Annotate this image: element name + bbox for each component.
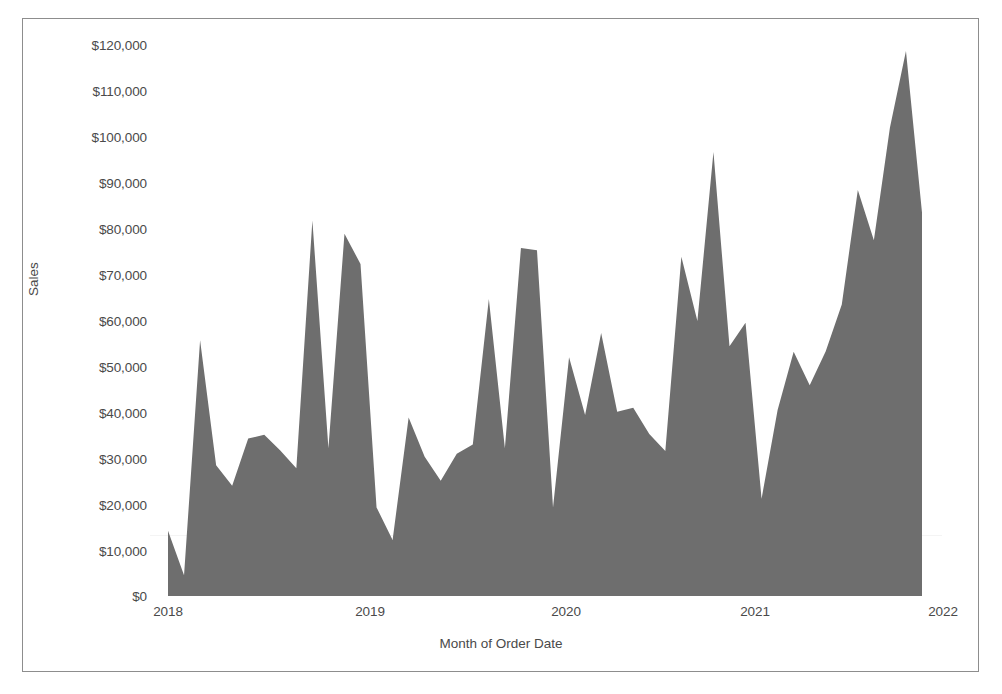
y-tick-label: $120,000 — [91, 38, 147, 53]
chart-frame — [22, 18, 979, 672]
x-tick-label: 2020 — [551, 604, 581, 619]
x-tick-label: 2018 — [153, 604, 183, 619]
y-tick-label: $10,000 — [99, 544, 147, 559]
y-tick-label: $70,000 — [99, 268, 147, 283]
y-tick-label: $110,000 — [92, 84, 147, 99]
x-tick-label: 2021 — [740, 604, 770, 619]
x-tick-label: 2022 — [928, 604, 958, 619]
y-tick-label: $20,000 — [99, 498, 147, 513]
y-tick-label: $60,000 — [99, 314, 147, 329]
y-tick-label: $100,000 — [91, 130, 147, 145]
x-tick-label: 2019 — [355, 604, 385, 619]
y-axis-title: Sales — [26, 262, 41, 296]
chart-page: $120,000 $110,000 $100,000 $90,000 $80,0… — [0, 0, 1002, 694]
scan-artifact-band — [150, 535, 942, 536]
y-tick-label: $40,000 — [99, 406, 147, 421]
y-tick-label: $50,000 — [99, 360, 147, 375]
y-tick-label: $90,000 — [99, 176, 147, 191]
x-axis-title: Month of Order Date — [0, 636, 1002, 651]
y-tick-label: $0 — [132, 589, 147, 604]
y-tick-label: $80,000 — [99, 222, 147, 237]
y-tick-label: $30,000 — [99, 452, 147, 467]
